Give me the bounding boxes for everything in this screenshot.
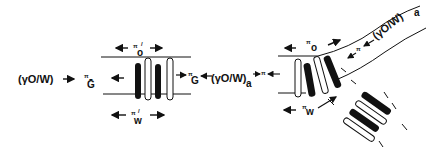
- svg-text:π: π: [261, 70, 266, 76]
- gamma-ow-label: (γO/W): [18, 73, 54, 85]
- svg-text:/: /: [138, 108, 140, 114]
- hollow-molecule: [145, 58, 151, 100]
- monolayer-diagram: π o / π w / (γO/W) π Ḡ π G (γO/W) a π: [0, 0, 433, 157]
- filled-molecule: [135, 63, 141, 99]
- svg-text:a: a: [246, 78, 252, 89]
- filled-molecule: [155, 64, 161, 99]
- arrow-up-right-icon: [318, 97, 336, 108]
- svg-text:o: o: [311, 42, 317, 53]
- hollow-molecule: [167, 58, 173, 100]
- arrow-right-icon: [328, 40, 340, 45]
- filled-molecule: [303, 63, 316, 98]
- outer-curve: [318, 6, 420, 56]
- curved-gamma-ow-a-label: (γO/W): [370, 10, 406, 41]
- svg-text:π: π: [356, 46, 361, 52]
- arrow-down-left-icon: [348, 53, 356, 58]
- flat-interface-panel: π o / π w / (γO/W) π Ḡ π G: [18, 41, 212, 126]
- svg-text:o: o: [137, 47, 143, 58]
- center-label: (γO/W) a π: [211, 70, 280, 89]
- svg-text:w: w: [133, 115, 142, 126]
- pi-g-bar-label: Ḡ: [87, 79, 95, 90]
- pi-g-label: G: [191, 75, 199, 86]
- arrow-down-left-icon: [364, 40, 374, 46]
- gamma-ow-a-label: (γO/W): [211, 72, 247, 84]
- svg-text:a: a: [414, 7, 420, 18]
- hollow-molecule: [295, 59, 301, 97]
- curved-interface-panel: π o π w π (γO/W) a: [278, 6, 426, 147]
- svg-text:w: w: [305, 106, 314, 117]
